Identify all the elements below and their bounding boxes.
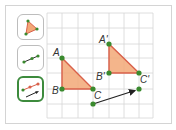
toolbar	[0, 0, 47, 130]
label-c-prime: C'	[140, 75, 149, 85]
triangle-polygon-icon	[18, 15, 45, 41]
point-a[interactable]	[59, 55, 64, 60]
point-b-prime[interactable]	[106, 70, 111, 75]
vector-end-point[interactable]	[136, 86, 141, 91]
point-b[interactable]	[59, 86, 64, 91]
label-b-prime: B'	[96, 72, 105, 82]
label-b: B	[52, 86, 59, 96]
vector-points-icon	[18, 46, 45, 72]
vector-tool-button[interactable]	[17, 45, 44, 71]
label-a-prime: A'	[99, 35, 108, 45]
translate-by-vector-icon	[19, 78, 46, 104]
polygon-tool-button[interactable]	[17, 14, 44, 40]
label-a: A	[53, 48, 60, 58]
label-c: C	[94, 91, 101, 101]
translate-by-vector-tool-button[interactable]	[17, 76, 44, 102]
vector-start-point[interactable]	[90, 101, 95, 106]
